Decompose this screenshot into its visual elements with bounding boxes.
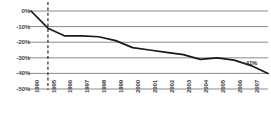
value-annotation: -41%	[244, 60, 257, 66]
chart-annotations: -41%	[0, 0, 271, 127]
line-chart: 0%-10%-20%-30%-40%-50% 19901995199619971…	[0, 0, 271, 127]
